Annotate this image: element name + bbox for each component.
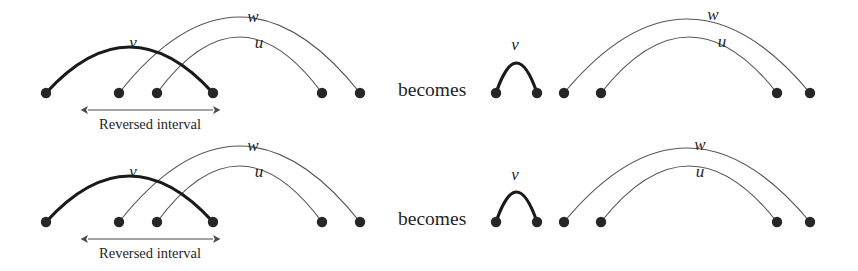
graph-node[interactable] bbox=[355, 88, 365, 98]
becomes-label-bottom: becomes bbox=[398, 208, 466, 229]
graph-node[interactable] bbox=[559, 88, 569, 98]
graph-node[interactable] bbox=[491, 88, 501, 98]
graph-node[interactable] bbox=[596, 217, 606, 227]
arc-label-v: v bbox=[129, 33, 137, 52]
becomes-label-top: becomes bbox=[398, 79, 466, 100]
graph-node[interactable] bbox=[532, 88, 542, 98]
arc-label-w: w bbox=[694, 135, 706, 154]
arc-label-w: w bbox=[247, 7, 259, 26]
graph-node[interactable] bbox=[41, 88, 51, 98]
graph-node[interactable] bbox=[772, 88, 782, 98]
arc-label-w: w bbox=[707, 5, 719, 24]
graph-node[interactable] bbox=[355, 217, 365, 227]
graph-node[interactable] bbox=[152, 217, 162, 227]
graph-node[interactable] bbox=[772, 217, 782, 227]
reversed-interval-label: Reversed interval bbox=[99, 116, 201, 132]
graph-node[interactable] bbox=[317, 217, 327, 227]
reversed-interval-label: Reversed interval bbox=[99, 245, 201, 261]
arc-label-v: v bbox=[129, 162, 137, 181]
arc-label-u: u bbox=[255, 33, 264, 52]
arc-label-u: u bbox=[696, 162, 705, 181]
graph-node[interactable] bbox=[114, 217, 124, 227]
graph-node[interactable] bbox=[805, 217, 815, 227]
graph-node[interactable] bbox=[805, 88, 815, 98]
graph-node[interactable] bbox=[559, 217, 569, 227]
arc-label-u: u bbox=[255, 162, 264, 181]
graph-node[interactable] bbox=[532, 217, 542, 227]
graph-node[interactable] bbox=[208, 217, 218, 227]
arc-diagram-figure: vwuReversed intervalvwuvwuReversed inter… bbox=[0, 0, 858, 271]
graph-node[interactable] bbox=[152, 88, 162, 98]
arc-label-v: v bbox=[511, 165, 519, 184]
graph-node[interactable] bbox=[41, 217, 51, 227]
graph-node[interactable] bbox=[491, 217, 501, 227]
arc-label-u: u bbox=[718, 32, 727, 51]
arc-label-v: v bbox=[511, 35, 519, 54]
graph-node[interactable] bbox=[208, 88, 218, 98]
graph-node[interactable] bbox=[596, 88, 606, 98]
arc-label-w: w bbox=[247, 136, 259, 155]
graph-node[interactable] bbox=[114, 88, 124, 98]
graph-node[interactable] bbox=[317, 88, 327, 98]
